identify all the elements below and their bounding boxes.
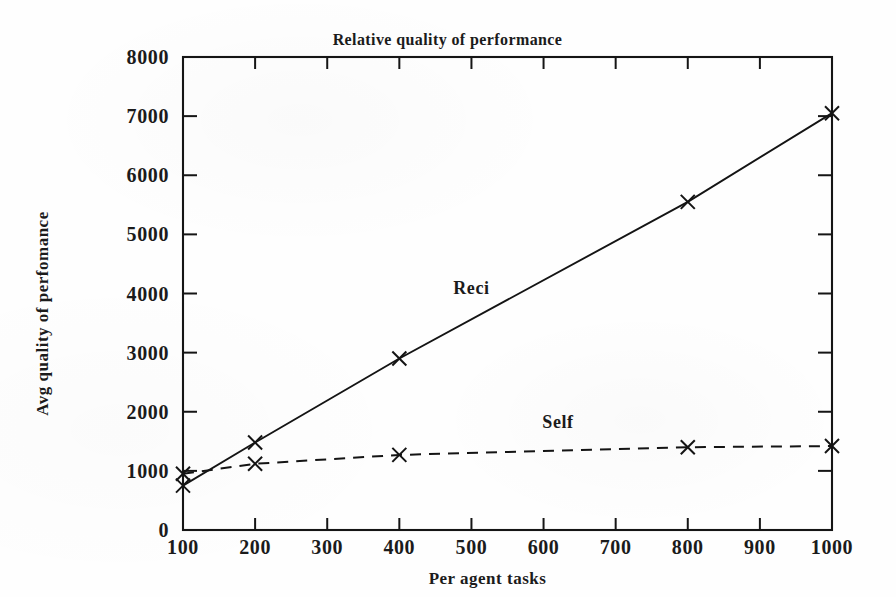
line-chart: 0100020003000400050006000700080001002003… [0, 0, 896, 597]
x-tick-label: 900 [744, 536, 776, 558]
x-tick-label: 500 [456, 536, 488, 558]
y-tick-label: 8000 [127, 46, 169, 68]
y-tick-label: 7000 [127, 105, 169, 127]
x-tick-label: 100 [167, 536, 199, 558]
y-axis-title: Avg quality of perfomance [33, 211, 52, 415]
data-point-reci [681, 195, 695, 209]
series-line-reci [183, 113, 832, 485]
y-tick-label: 5000 [127, 223, 169, 245]
x-tick-label: 600 [528, 536, 560, 558]
series-label-self: Self [542, 412, 574, 432]
series-label-reci: Reci [453, 278, 489, 298]
x-tick-label: 1000 [811, 536, 853, 558]
y-tick-label: 2000 [127, 401, 169, 423]
x-tick-label: 400 [383, 536, 415, 558]
chart-title: Relative quality of performance [333, 31, 563, 49]
y-tick-label: 1000 [127, 460, 169, 482]
x-tick-label: 700 [600, 536, 632, 558]
y-tick-label: 3000 [127, 342, 169, 364]
x-axis-title: Per agent tasks [429, 569, 547, 588]
series-line-self [183, 446, 832, 474]
x-tick-label: 300 [311, 536, 343, 558]
data-point-reci [392, 352, 406, 366]
x-tick-label: 200 [239, 536, 271, 558]
plot-frame [183, 57, 832, 530]
y-tick-label: 4000 [127, 283, 169, 305]
y-tick-label: 6000 [127, 164, 169, 186]
x-tick-label: 800 [672, 536, 704, 558]
data-point-reci [248, 435, 262, 449]
